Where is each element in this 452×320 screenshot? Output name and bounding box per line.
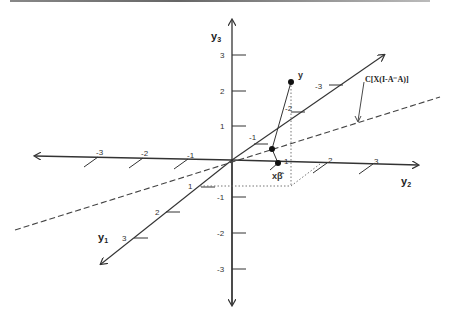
point-xbeta-label: xβ̂ xyxy=(272,171,284,181)
y2-axis: -3 -2 -1 1 2 3 y2 xyxy=(35,148,418,188)
y2-tick-neg1: -1 xyxy=(187,151,195,160)
point-projection xyxy=(269,146,275,152)
y3-axis-label: y3 xyxy=(211,30,221,43)
point-xbeta xyxy=(275,160,281,166)
y2-tick-neg2: -2 xyxy=(141,149,149,158)
y1-tick-2: 2 xyxy=(155,208,160,217)
projection-guides xyxy=(200,82,320,186)
y3-tick-1: 1 xyxy=(220,122,225,131)
y3-tick-neg3: -3 xyxy=(217,265,225,274)
y1-axis-label: y1 xyxy=(98,231,108,244)
y1-tick-neg1: -1 xyxy=(249,133,257,142)
y1-tick-3: 3 xyxy=(122,234,127,243)
y1-tick-neg3: -3 xyxy=(315,82,323,91)
y-to-projection-segment xyxy=(272,82,291,149)
subspace-annotation: C[X(I-A⁻A)] xyxy=(355,75,409,122)
y2-tick-1: 1 xyxy=(284,157,289,166)
y2-tick-2: 2 xyxy=(328,156,333,165)
y3-tick-neg2: -2 xyxy=(217,229,225,238)
y2-tick-3: 3 xyxy=(374,157,379,166)
subspace-label: C[X(I-A⁻A)] xyxy=(365,75,409,84)
y3-tick-3: 3 xyxy=(220,51,225,60)
y1-tick-1: 1 xyxy=(188,182,193,191)
y2-tick-neg3: -3 xyxy=(96,148,104,157)
y1-tick-neg2: -2 xyxy=(285,104,293,113)
y3-tick-neg1: -1 xyxy=(217,193,225,202)
point-y-label: y xyxy=(298,70,303,80)
vector-space-diagram: 3 2 1 -1 -2 -3 y3 -3 -2 -1 1 2 3 y2 -1 -… xyxy=(0,0,452,320)
point-y xyxy=(288,79,294,85)
y3-tick-2: 2 xyxy=(220,87,225,96)
y2-axis-label: y2 xyxy=(401,175,411,188)
